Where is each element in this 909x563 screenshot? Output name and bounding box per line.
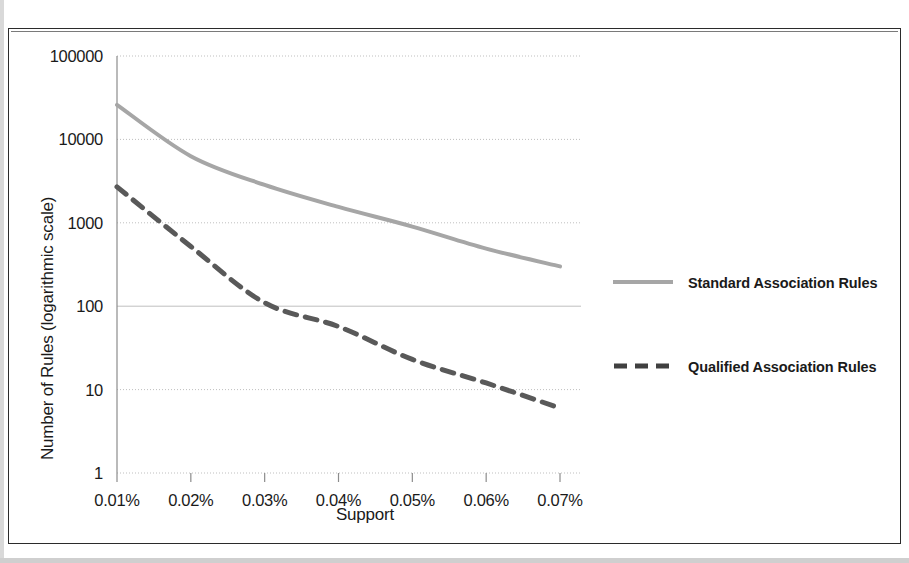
legend-label: Qualified Association Rules [688,359,877,375]
x-tick-label: 0.02% [168,491,213,510]
x-tick-marks [117,473,560,482]
x-tick-label: 0.07% [537,491,582,510]
legend-label: Standard Association Rules [688,275,877,291]
legend-swatch-solid-icon [612,274,674,292]
scanned-page: 100000 10000 1000 100 10 1 0.01% 0.02% 0… [0,0,909,563]
y-axis-title: Number of Rules (logarithmic scale) [38,197,58,460]
legend-swatch-dashed-icon [612,358,674,376]
gridlines [117,56,581,473]
data-series-layer [117,105,560,408]
legend-item-qualified-association-rules: Qualified Association Rules [612,358,877,376]
series-line [117,187,560,408]
y-tick-label: 1 [8,464,103,483]
x-tick-label: 0.06% [464,491,509,510]
y-tick-label: 10000 [8,130,103,149]
y-tick-label: 100000 [8,47,103,66]
page-bottom-edge-shadow [0,558,909,563]
line-chart: 100000 10000 1000 100 10 1 0.01% 0.02% 0… [8,28,901,544]
page-left-edge-shadow [0,0,4,563]
x-axis-title: Support [305,505,425,525]
x-tick-label: 0.01% [94,491,139,510]
x-tick-label: 0.03% [242,491,287,510]
legend-item-standard-association-rules: Standard Association Rules [612,274,877,292]
